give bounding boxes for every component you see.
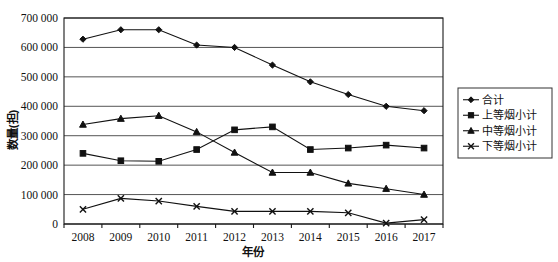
y-axis-tick-labels: 0100 000200 000300 000400 000500 000600 … <box>21 12 59 230</box>
data-point-square <box>308 147 314 153</box>
y-tick-label: 700 000 <box>21 12 59 24</box>
x-axis-title: 年份 <box>242 245 265 258</box>
data-point-square <box>194 147 200 153</box>
data-point-diamond <box>269 62 275 68</box>
series-2 <box>80 112 428 197</box>
data-point-square <box>118 158 124 164</box>
x-tick-label: 2017 <box>413 231 436 243</box>
data-series-layer <box>80 27 428 227</box>
x-tick-label: 2010 <box>147 231 170 243</box>
chart-container: 0100 000200 000300 000400 000500 000600 … <box>0 0 558 262</box>
data-point-diamond <box>307 79 313 85</box>
data-point-triangle <box>155 112 162 118</box>
data-point-diamond <box>156 27 162 33</box>
data-point-square <box>156 159 162 165</box>
data-point-diamond <box>80 36 86 42</box>
data-point-square <box>270 124 276 130</box>
x-tick-label: 2009 <box>109 231 132 243</box>
series-3 <box>80 195 427 226</box>
y-tick-label: 300 000 <box>21 130 59 142</box>
x-tick-label: 2008 <box>71 231 94 243</box>
y-axis-title: 数量(担) <box>6 110 19 151</box>
x-tick-label: 2012 <box>223 231 246 243</box>
y-tick-label: 200 000 <box>21 159 59 171</box>
data-point-diamond <box>118 27 124 33</box>
x-tick-label: 2013 <box>261 231 284 243</box>
legend-label: 下等烟小计 <box>482 139 537 152</box>
x-tick-label: 2011 <box>185 231 208 243</box>
legend-label: 上等烟小计 <box>482 108 537 121</box>
data-point-square <box>383 142 389 148</box>
data-point-square <box>232 127 238 133</box>
data-point-square <box>345 145 351 151</box>
y-tick-label: 600 000 <box>21 41 59 53</box>
x-tick-label: 2014 <box>299 231 322 243</box>
data-point-cross <box>80 206 86 212</box>
data-point-square <box>80 151 86 157</box>
series-0 <box>80 27 427 114</box>
x-tick-label: 2015 <box>337 231 360 243</box>
data-point-diamond <box>231 44 237 50</box>
data-point-triangle <box>193 128 200 134</box>
y-tick-label: 0 <box>52 218 58 230</box>
data-point-diamond <box>383 103 389 109</box>
data-point-square <box>421 145 427 151</box>
x-axis-ticks <box>64 224 443 228</box>
data-point-triangle <box>231 149 238 155</box>
y-tick-label: 500 000 <box>21 71 59 83</box>
legend-label: 中等烟小计 <box>482 124 537 137</box>
y-tick-label: 400 000 <box>21 100 59 112</box>
y-tick-label: 100 000 <box>21 189 59 201</box>
x-axis-tick-labels: 2008200920102011201220132014201520162017 <box>71 231 435 243</box>
data-point-diamond <box>421 108 427 114</box>
line-chart: 0100 000200 000300 000400 000500 000600 … <box>0 0 558 262</box>
legend-label: 合计 <box>482 93 504 106</box>
series-1 <box>80 124 427 164</box>
chart-legend: 合计上等烟小计中等烟小计下等烟小计 <box>458 88 552 158</box>
x-tick-label: 2016 <box>375 231 398 243</box>
data-point-square <box>468 113 473 118</box>
data-point-diamond <box>345 91 351 97</box>
